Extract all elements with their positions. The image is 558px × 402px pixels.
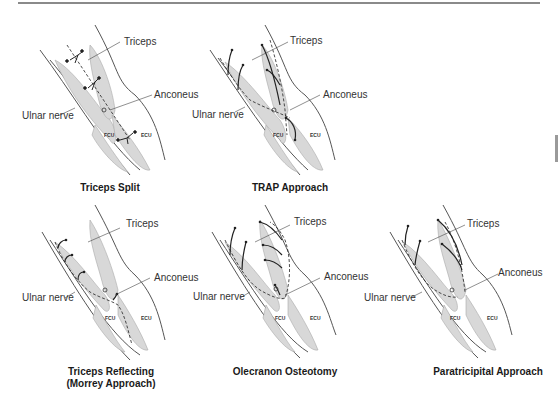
label-ecu: ECU xyxy=(310,315,321,321)
label-ecu: ECU xyxy=(487,315,498,321)
label-fcu: FCU xyxy=(275,315,285,321)
elbow-illustration xyxy=(180,0,380,200)
label-triceps: Triceps xyxy=(294,216,326,227)
caption-triceps-reflecting: Triceps Reflecting (Morrey Approach) xyxy=(55,366,167,390)
panel-trap-approach: Triceps Anconeus Ulnar nerve FCU ECU TRA… xyxy=(180,0,380,200)
label-anconeus: Anconeus xyxy=(323,89,367,100)
label-triceps: Triceps xyxy=(124,36,156,47)
label-ulnar-nerve: Ulnar nerve xyxy=(364,292,416,303)
label-ulnar-nerve: Ulnar nerve xyxy=(193,291,245,302)
caption-line-2: (Morrey Approach) xyxy=(55,378,167,390)
panel-triceps-reflecting: Triceps Anconeus Ulnar nerve FCU ECU Tri… xyxy=(0,200,190,402)
caption-triceps-split: Triceps Split xyxy=(60,182,160,194)
label-fcu: FCU xyxy=(450,315,460,321)
label-triceps: Triceps xyxy=(126,218,158,229)
label-ulnar-nerve: Ulnar nerve xyxy=(22,110,74,121)
label-fcu: FCU xyxy=(105,315,115,321)
caption-trap-approach: TRAP Approach xyxy=(240,182,340,194)
caption-paratricipital-approach: Paratricipital Approach xyxy=(428,366,548,378)
label-fcu: FCU xyxy=(273,132,283,138)
label-anconeus: Anconeus xyxy=(324,271,368,282)
caption-line-1: Triceps Reflecting xyxy=(55,366,167,378)
panel-olecranon-osteotomy: Triceps Anconeus Ulnar nerve FCU ECU Ole… xyxy=(190,200,370,402)
label-anconeus: Anconeus xyxy=(498,267,542,278)
label-fcu: FCU xyxy=(104,132,114,138)
panel-triceps-split: Triceps Anconeus Ulnar nerve FCU ECU Tri… xyxy=(0,0,180,200)
label-ecu: ECU xyxy=(310,132,321,138)
label-ecu: ECU xyxy=(141,132,152,138)
label-triceps: Triceps xyxy=(290,35,322,46)
caption-olecranon-osteotomy: Olecranon Osteotomy xyxy=(230,366,340,378)
label-ulnar-nerve: Ulnar nerve xyxy=(22,292,74,303)
label-triceps: Triceps xyxy=(467,218,499,229)
label-ulnar-nerve: Ulnar nerve xyxy=(192,109,244,120)
elbow-illustration xyxy=(0,0,180,200)
label-ecu: ECU xyxy=(141,315,152,321)
panel-paratricipital-approach: Triceps Anconeus Ulnar nerve FCU ECU Par… xyxy=(370,200,558,402)
